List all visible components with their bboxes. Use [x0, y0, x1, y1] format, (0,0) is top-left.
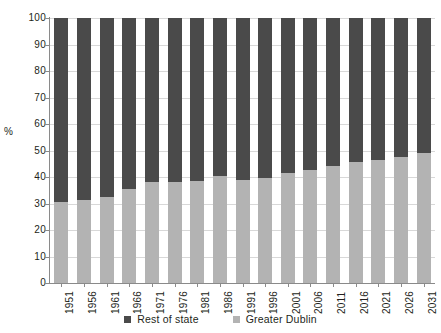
y-axis-tick-label: 10 [0, 252, 46, 262]
bar-segment-rest-of-state[interactable] [417, 18, 431, 153]
bar-column[interactable] [190, 18, 204, 283]
bar-segment-rest-of-state[interactable] [77, 18, 91, 200]
x-axis-tick-label: 2001 [292, 291, 302, 314]
bar-segment-greater-dublin[interactable] [394, 157, 408, 283]
bar-column[interactable] [281, 18, 295, 283]
x-axis-tick-mark [265, 283, 266, 287]
x-axis-tick-label: 2026 [405, 291, 415, 314]
bar-column[interactable] [100, 18, 114, 283]
x-axis-tick-mark [356, 283, 357, 287]
legend-item[interactable]: Greater Dublin [233, 313, 317, 325]
bar-segment-rest-of-state[interactable] [213, 18, 227, 176]
bar-segment-greater-dublin[interactable] [168, 182, 182, 283]
x-axis-tick-label: 1951 [65, 291, 75, 314]
legend-swatch-icon [233, 316, 240, 323]
y-axis-tick-label: 40 [0, 172, 46, 182]
y-axis-tick-label: 30 [0, 199, 46, 209]
y-axis-tick-label: 50 [0, 146, 46, 156]
x-axis-tick-label: 2031 [428, 291, 438, 314]
bar-segment-rest-of-state[interactable] [394, 18, 408, 157]
bar-segment-greater-dublin[interactable] [100, 197, 114, 283]
y-axis-tick-label: 0 [0, 278, 46, 288]
bar-segment-greater-dublin[interactable] [349, 162, 363, 283]
bar-column[interactable] [303, 18, 317, 283]
x-axis-tick-label: 1966 [133, 291, 143, 314]
x-axis-tick-label: 2011 [337, 292, 347, 314]
y-axis-tick-label: 100 [0, 13, 46, 23]
bar-segment-rest-of-state[interactable] [326, 18, 340, 166]
bar-column[interactable] [145, 18, 159, 283]
bar-segment-rest-of-state[interactable] [236, 18, 250, 180]
bar-segment-greater-dublin[interactable] [213, 176, 227, 283]
x-axis-tick-mark [197, 283, 198, 287]
bar-segment-rest-of-state[interactable] [258, 18, 272, 178]
bar-column[interactable] [54, 18, 68, 283]
x-axis-tick-label: 1991 [247, 291, 257, 314]
bar-segment-greater-dublin[interactable] [190, 181, 204, 283]
bar-column[interactable] [394, 18, 408, 283]
bar-segment-greater-dublin[interactable] [281, 173, 295, 283]
x-axis-tick-mark [401, 283, 402, 287]
y-axis-tick-label: 90 [0, 40, 46, 50]
bar-segment-rest-of-state[interactable] [349, 18, 363, 162]
bar-segment-greater-dublin[interactable] [371, 160, 385, 283]
x-axis-tick-label: 1981 [201, 291, 211, 314]
bar-segment-greater-dublin[interactable] [54, 202, 68, 283]
stacked-bar-chart: % 0102030405060708090100 195119561961196… [0, 0, 441, 333]
x-axis-tick-mark [333, 283, 334, 287]
chart-legend: Rest of stateGreater Dublin [0, 313, 441, 325]
x-axis-tick-mark [424, 283, 425, 287]
x-axis-tick-mark [61, 283, 62, 287]
legend-item[interactable]: Rest of state [124, 313, 199, 325]
bar-column[interactable] [326, 18, 340, 283]
x-axis-tick-mark [152, 283, 153, 287]
bar-column[interactable] [349, 18, 363, 283]
bar-column[interactable] [122, 18, 136, 283]
x-axis-tick-label: 1986 [224, 291, 234, 314]
legend-label: Greater Dublin [246, 313, 317, 325]
bar-segment-rest-of-state[interactable] [54, 18, 68, 202]
x-axis-tick-label: 2021 [382, 291, 392, 314]
bar-segment-rest-of-state[interactable] [281, 18, 295, 173]
x-axis-tick-mark [288, 283, 289, 287]
x-axis-tick-mark [84, 283, 85, 287]
bar-segment-greater-dublin[interactable] [145, 182, 159, 283]
x-axis-tick-label: 1956 [88, 291, 98, 314]
bar-segment-greater-dublin[interactable] [417, 153, 431, 283]
x-axis-tick-label: 2006 [314, 291, 324, 314]
bar-column[interactable] [77, 18, 91, 283]
bar-segment-rest-of-state[interactable] [145, 18, 159, 182]
bar-segment-rest-of-state[interactable] [371, 18, 385, 160]
x-axis-tick-mark [220, 283, 221, 287]
bar-segment-greater-dublin[interactable] [258, 178, 272, 283]
bar-column[interactable] [168, 18, 182, 283]
legend-swatch-icon [124, 316, 131, 323]
bar-segment-greater-dublin[interactable] [236, 180, 250, 283]
bar-segment-rest-of-state[interactable] [190, 18, 204, 181]
bar-segment-rest-of-state[interactable] [168, 18, 182, 182]
x-axis-tick-label: 2016 [360, 291, 370, 314]
x-axis-tick-mark [378, 283, 379, 287]
bar-segment-rest-of-state[interactable] [303, 18, 317, 170]
x-axis-tick-label: 1976 [179, 291, 189, 314]
bar-segment-rest-of-state[interactable] [100, 18, 114, 197]
x-axis-tick-mark [107, 283, 108, 287]
x-axis-tick-mark [129, 283, 130, 287]
bar-segment-rest-of-state[interactable] [122, 18, 136, 189]
bar-segment-greater-dublin[interactable] [326, 166, 340, 283]
bar-segment-greater-dublin[interactable] [77, 200, 91, 283]
x-axis-tick-label: 1996 [269, 291, 279, 314]
bar-column[interactable] [258, 18, 272, 283]
x-axis-tick-mark [310, 283, 311, 287]
bar-segment-greater-dublin[interactable] [303, 170, 317, 283]
bar-segment-greater-dublin[interactable] [122, 189, 136, 283]
bar-column[interactable] [417, 18, 431, 283]
bar-column[interactable] [236, 18, 250, 283]
bar-column[interactable] [371, 18, 385, 283]
y-axis-tick-label: 60 [0, 119, 46, 129]
x-axis-tick-label: 1961 [111, 291, 121, 314]
legend-label: Rest of state [137, 313, 199, 325]
x-axis-tick-mark [243, 283, 244, 287]
y-axis-tick-label: 70 [0, 93, 46, 103]
bar-column[interactable] [213, 18, 227, 283]
